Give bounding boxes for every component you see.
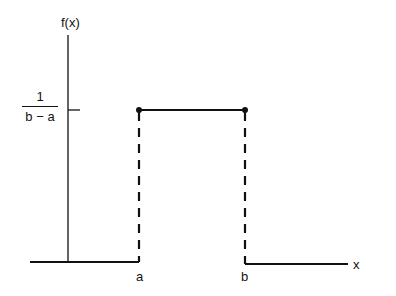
tick-label-a: a [136, 270, 143, 283]
y-axis-label: f(x) [61, 16, 80, 29]
fraction-bar [22, 106, 58, 107]
tick-label-b: b [241, 270, 248, 283]
height-numerator: 1 [22, 89, 58, 105]
height-denominator: b − a [22, 108, 58, 124]
endpoint-dot-a [136, 107, 142, 113]
endpoint-dot-b [242, 107, 248, 113]
height-label: 1 b − a [22, 89, 58, 124]
x-axis-label: x [353, 258, 360, 271]
uniform-pdf-plot [0, 0, 396, 296]
